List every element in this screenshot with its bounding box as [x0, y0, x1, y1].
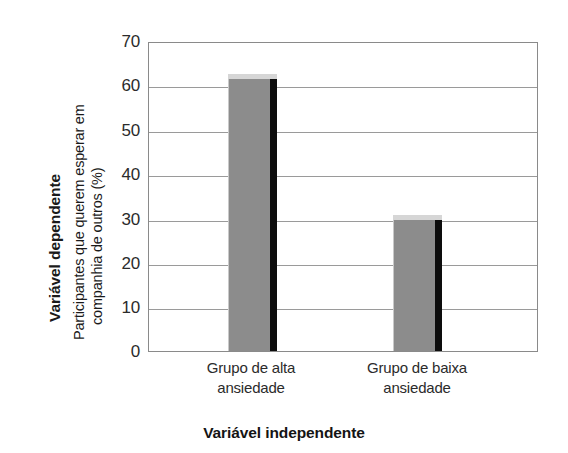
y-tick-0: 0	[108, 342, 140, 362]
bar-face	[228, 79, 270, 351]
x-axis-category-labels: Grupo de alta ansiedade Grupo de baixa a…	[148, 358, 538, 412]
bar-side-shadow	[435, 220, 442, 351]
x-label-0-line-2: ansiedade	[217, 379, 284, 396]
y-axis-title-line-2: companhia de outros (%)	[90, 168, 105, 325]
y-tick-60: 60	[108, 76, 140, 96]
y-tick-20: 20	[108, 254, 140, 274]
gridline-50	[149, 132, 537, 133]
x-label-0-line-1: Grupo de alta	[207, 359, 295, 376]
y-axis-title-line-1: Participantes que querem esperar em	[72, 104, 87, 340]
y-axis-title-bold: Variável dependente	[47, 174, 63, 322]
bar-side-shadow	[270, 79, 277, 351]
gridline-20	[149, 265, 537, 266]
y-tick-70: 70	[108, 32, 140, 52]
y-tick-40: 40	[108, 165, 140, 185]
gridline-10	[149, 309, 537, 310]
bar-grupo-de-baixa-ansiedade	[393, 215, 442, 351]
x-label-1-line-2: ansiedade	[383, 379, 450, 396]
y-axis-tick-labels: 70 60 50 40 30 20 10 0	[108, 0, 140, 453]
gridline-30	[149, 221, 537, 222]
gridline-60	[149, 87, 537, 88]
bar-face	[393, 220, 435, 351]
y-tick-10: 10	[108, 298, 140, 318]
y-tick-30: 30	[108, 210, 140, 230]
x-label-1-line-1: Grupo de baixa	[367, 359, 467, 376]
gridline-40	[149, 176, 537, 177]
x-axis-title: Variável independente	[0, 424, 568, 442]
plot-area	[148, 42, 538, 352]
bar-chart-figure: Variável dependente Participantes que qu…	[0, 0, 568, 453]
y-tick-50: 50	[108, 121, 140, 141]
bar-grupo-de-alta-ansiedade	[228, 74, 277, 351]
